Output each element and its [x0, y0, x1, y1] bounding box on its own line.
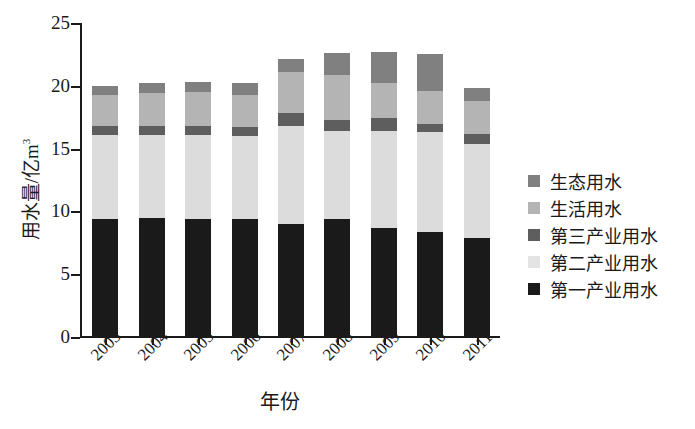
bar-2008[interactable]	[324, 53, 350, 337]
bar-segment	[139, 83, 165, 93]
plot-area	[82, 23, 500, 337]
bar-segment	[278, 72, 304, 113]
y-axis-tick	[71, 86, 80, 88]
y-tick-labels: 0510152025	[28, 0, 70, 429]
bar-segment	[232, 136, 258, 219]
legend-label: 生态用水	[550, 168, 622, 194]
bar-segment	[139, 135, 165, 218]
bar-segment	[371, 118, 397, 131]
legend-item-0[interactable]: 生态用水	[528, 167, 658, 194]
bar-segment	[371, 228, 397, 337]
bar-segment	[324, 53, 350, 74]
legend-item-4[interactable]: 第一产业用水	[528, 275, 658, 302]
bar-segment	[139, 218, 165, 337]
bar-segment	[371, 52, 397, 83]
legend-label: 第二产业用水	[550, 249, 658, 275]
legend-item-3[interactable]: 第二产业用水	[528, 248, 658, 275]
bar-segment	[278, 59, 304, 72]
y-axis-tick	[71, 23, 80, 25]
y-tick-label: 0	[34, 327, 70, 346]
y-tick-label: 25	[34, 13, 70, 32]
legend-label: 生活用水	[550, 195, 622, 221]
y-axis-tick	[71, 337, 80, 339]
bar-segment	[464, 88, 490, 101]
bar-segment	[92, 219, 118, 337]
bar-segment	[185, 92, 211, 126]
bar-2011[interactable]	[464, 88, 490, 337]
x-axis-title: 年份	[200, 386, 360, 415]
bar-segment	[417, 91, 443, 124]
bar-segment	[324, 131, 350, 219]
legend-item-2[interactable]: 第三产业用水	[528, 221, 658, 248]
bar-segment	[92, 95, 118, 126]
bar-2004[interactable]	[139, 83, 165, 337]
bar-segment	[139, 93, 165, 126]
bar-segment	[185, 219, 211, 337]
bar-2010[interactable]	[417, 54, 443, 337]
bar-segment	[232, 127, 258, 136]
legend-swatch-icon	[528, 202, 540, 214]
y-tick-label: 15	[34, 139, 70, 158]
bar-segment	[232, 219, 258, 337]
bar-segment	[417, 232, 443, 338]
bar-segment	[417, 124, 443, 133]
bar-2007[interactable]	[278, 59, 304, 337]
bar-segment	[417, 132, 443, 231]
legend: 生态用水生活用水第三产业用水第二产业用水第一产业用水	[528, 167, 658, 302]
legend-label: 第三产业用水	[550, 222, 658, 248]
bar-segment	[417, 54, 443, 90]
bar-segment	[278, 126, 304, 224]
bar-segment	[185, 135, 211, 219]
bar-segment	[185, 82, 211, 92]
bar-segment	[324, 75, 350, 120]
y-axis-tick	[71, 274, 80, 276]
legend-label: 第一产业用水	[550, 276, 658, 302]
bar-segment	[464, 238, 490, 337]
bar-segment	[232, 83, 258, 94]
legend-swatch-icon	[528, 283, 540, 295]
legend-swatch-icon	[528, 256, 540, 268]
bar-segment	[464, 101, 490, 134]
bar-segment	[371, 83, 397, 118]
y-tick-label: 20	[34, 76, 70, 95]
bar-segment	[232, 95, 258, 128]
bar-2005[interactable]	[185, 82, 211, 337]
bar-segment	[464, 134, 490, 144]
y-tick-label: 5	[34, 264, 70, 283]
y-tick-label: 10	[34, 201, 70, 220]
bar-segment	[324, 120, 350, 131]
bar-segment	[278, 113, 304, 126]
bar-segment	[92, 126, 118, 135]
bar-segment	[92, 86, 118, 95]
bar-segment	[92, 135, 118, 219]
stacked-bar-chart: 用水量/亿m3 0510152025 200320042005200620072…	[0, 0, 695, 429]
bar-segment	[139, 126, 165, 135]
bar-segment	[324, 219, 350, 337]
bar-segment	[185, 126, 211, 135]
bar-segment	[278, 224, 304, 337]
legend-swatch-icon	[528, 175, 540, 187]
bar-2003[interactable]	[92, 86, 118, 337]
bar-2009[interactable]	[371, 52, 397, 337]
legend-item-1[interactable]: 生活用水	[528, 194, 658, 221]
bar-2006[interactable]	[232, 83, 258, 337]
y-axis-tick	[71, 211, 80, 213]
legend-swatch-icon	[528, 229, 540, 241]
bar-segment	[464, 144, 490, 238]
bar-segment	[371, 131, 397, 228]
y-axis-tick	[71, 149, 80, 151]
